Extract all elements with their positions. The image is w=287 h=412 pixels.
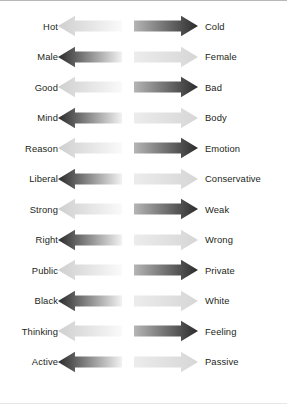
dichotomy-row: RightWrong [0,225,287,256]
arrow-head-right [134,199,198,219]
diagram-page: HotColdMaleFemaleGoodBadMindBodyReasonEm… [0,0,287,412]
double-arrow-icon [58,225,198,256]
pole-label-left: Reason [0,144,58,153]
pole-label-right: Weak [198,205,287,214]
arrow-head-right [134,108,198,128]
arrow-head-left [58,291,122,311]
pole-label-left: Active [0,357,58,366]
pole-label-left: Strong [0,205,58,214]
arrow-head-left [58,16,122,36]
dichotomy-row: ReasonEmotion [0,133,287,164]
pole-label-right: Passive [198,357,287,366]
bottom-divider [0,403,287,404]
dichotomy-row: HotCold [0,11,287,42]
dichotomy-row: ActivePassive [0,347,287,378]
arrow-head-right [134,169,198,189]
arrow-head-left [58,321,122,341]
pole-label-left: Thinking [0,327,58,336]
arrow-head-right [134,260,198,280]
double-arrow-icon [58,316,198,347]
pole-label-left: Public [0,266,58,275]
pole-label-left: Right [0,235,58,244]
double-arrow-icon [58,42,198,73]
arrow-head-left [58,199,122,219]
arrow-head-left [58,260,122,280]
pole-label-right: Body [198,113,287,122]
pole-label-left: Hot [0,22,58,31]
dichotomy-row: ThinkingFeeling [0,316,287,347]
arrow-head-right [134,352,198,372]
pole-label-right: White [198,296,287,305]
pole-label-left: Liberal [0,174,58,183]
double-arrow-icon [58,72,198,103]
double-arrow-icon [58,194,198,225]
double-arrow-icon [58,103,198,134]
dichotomy-row: BlackWhite [0,286,287,317]
double-arrow-icon [58,255,198,286]
double-arrow-icon [58,11,198,42]
arrow-head-right [134,16,198,36]
dichotomy-row: MindBody [0,103,287,134]
top-divider [0,0,287,1]
pole-label-left: Mind [0,113,58,122]
pole-label-right: Cold [198,22,287,31]
arrow-head-right [134,138,198,158]
arrow-head-left [58,352,122,372]
pole-label-right: Conservative [198,174,287,183]
pole-label-right: Wrong [198,235,287,244]
dichotomy-row: MaleFemale [0,42,287,73]
double-arrow-icon [58,133,198,164]
pole-label-right: Female [198,52,287,61]
arrow-head-right [134,77,198,97]
double-arrow-icon [58,164,198,195]
pole-label-right: Feeling [198,327,287,336]
arrow-head-left [58,77,122,97]
dichotomy-row: LiberalConservative [0,164,287,195]
arrow-head-left [58,169,122,189]
arrow-head-left [58,47,122,67]
pole-label-left: Black [0,296,58,305]
arrow-head-left [58,108,122,128]
arrow-head-left [58,138,122,158]
arrow-head-right [134,47,198,67]
dichotomy-row: StrongWeak [0,194,287,225]
pole-label-left: Good [0,83,58,92]
double-arrow-icon [58,347,198,378]
dichotomy-row-list: HotColdMaleFemaleGoodBadMindBodyReasonEm… [0,11,287,377]
pole-label-right: Bad [198,83,287,92]
pole-label-right: Emotion [198,144,287,153]
arrow-head-left [58,230,122,250]
dichotomy-row: GoodBad [0,72,287,103]
arrow-head-right [134,321,198,341]
pole-label-left: Male [0,52,58,61]
arrow-head-right [134,291,198,311]
double-arrow-icon [58,286,198,317]
dichotomy-row: PublicPrivate [0,255,287,286]
arrow-head-right [134,230,198,250]
pole-label-right: Private [198,266,287,275]
